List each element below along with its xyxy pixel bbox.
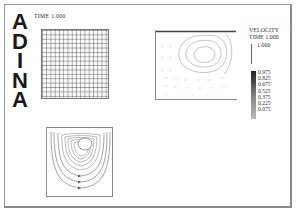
reference-arrow-icon: [251, 44, 252, 64]
colorbar: [251, 71, 256, 119]
velocity-legend: VELOCITY TIME 1.000 1.000 0.975 0.825 0.…: [249, 27, 293, 40]
streamlines-icon: [47, 128, 114, 198]
adina-logo: A D I N A: [10, 12, 30, 110]
mesh-time-label: TIME 1.000: [34, 13, 66, 19]
velocity-vector-plot: [155, 30, 237, 100]
mesh-grid-plot: [41, 29, 109, 99]
colorbar-tick: 0.075: [258, 106, 271, 112]
streamline-plot: [46, 127, 113, 197]
legend-time-label: TIME 1.000: [249, 34, 293, 41]
colorbar-ticks: 0.975 0.825 0.675 0.525 0.375 0.225 0.07…: [258, 69, 271, 112]
reference-value: 1.000: [257, 42, 271, 49]
logo-letter: A: [10, 90, 30, 110]
velocity-vectors-icon: [156, 30, 238, 100]
colorbar-tick: 0.525: [258, 88, 271, 94]
colorbar-tick: 0.675: [258, 81, 271, 87]
